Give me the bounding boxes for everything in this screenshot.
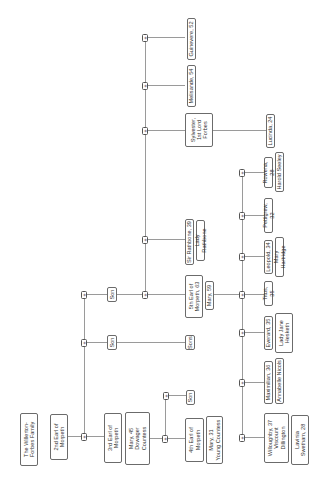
connector-line [145, 85, 185, 86]
connector-line [242, 437, 264, 438]
connector-line [242, 172, 264, 173]
node-sir-rathbone[interactable]: Sir Rathbone, 39 [185, 219, 194, 265]
connector-line [165, 396, 166, 439]
node-annabelle[interactable]: Annabelle Nicols [275, 358, 284, 404]
node-rowena[interactable]: Rowena, 28 [264, 157, 273, 188]
node-mary-45[interactable]: Mary, 45 Dowager Countess [125, 412, 150, 465]
connector-line [117, 294, 145, 295]
node-harold-seeley[interactable]: Harold Seeley [275, 152, 284, 192]
connector-line [145, 130, 185, 131]
expand-button[interactable]: + [239, 212, 245, 220]
connector-line [145, 239, 185, 240]
connector-line [84, 295, 85, 437]
node-melisande[interactable]: Melisande, 54 [187, 65, 196, 107]
connector-line [242, 215, 264, 216]
expand-button[interactable]: + [239, 329, 245, 337]
expand-button[interactable]: + [142, 127, 148, 135]
node-sylvester[interactable]: Sylvester, 1st Lord Forbes [185, 113, 213, 147]
connector-line [145, 294, 185, 295]
node-pettigrew[interactable]: Pettigrew, 32 [264, 198, 273, 233]
expand-button[interactable]: + [81, 339, 87, 347]
connector-line [84, 436, 104, 437]
title-node: The Willerton- Forbes Family [20, 413, 38, 466]
node-willoughby[interactable]: Willoughby, 37 Viscount Dillington [264, 413, 289, 463]
node-sons[interactable]: Sons [185, 335, 195, 350]
connector-line [242, 294, 264, 295]
node-lady-jane[interactable]: Lady Jane Hesketh [275, 313, 293, 353]
connector-line [145, 38, 146, 295]
expand-button[interactable]: + [81, 433, 87, 441]
node-2nd-earl[interactable]: 2nd Earl of Morpeth [50, 414, 68, 460]
expand-button[interactable]: + [142, 291, 148, 299]
connector-line [145, 37, 185, 38]
node-3rd-earl[interactable]: 3rd Earl of Morpeth [104, 413, 122, 463]
node-5th-earl[interactable]: 5th Earl of Morpeth, 63 [185, 275, 203, 318]
expand-button[interactable]: + [142, 34, 148, 42]
node-lady-rathbone[interactable]: Lady Rathbone [196, 220, 205, 261]
connector-line [166, 395, 186, 396]
node-maximilian[interactable]: Maximilian, 36 [264, 361, 273, 404]
expand-button[interactable]: + [142, 236, 148, 244]
node-lavinia[interactable]: Lavinia Swetham, 28 [291, 415, 309, 465]
expand-button[interactable]: + [239, 169, 245, 177]
connector-line [84, 342, 107, 343]
connector-line [213, 130, 266, 131]
connector-line [242, 256, 264, 257]
expand-button[interactable]: + [239, 253, 245, 261]
connector-line [214, 294, 242, 295]
node-mary-31[interactable]: Mary, 31 Young Countess [206, 416, 223, 464]
node-mary-59[interactable]: Mary, 59 [205, 281, 214, 310]
connector-line [242, 382, 264, 383]
expand-button[interactable]: + [142, 82, 148, 90]
expand-button[interactable]: + [239, 291, 245, 299]
node-mary-hartridge[interactable]: Mary Hartridge [275, 237, 284, 277]
expand-button[interactable]: + [239, 434, 245, 442]
node-4th-earl[interactable]: 4th Earl of Morpeth [185, 418, 204, 462]
family-tree-diagram: The Willerton- Forbes Family 2nd Earl of… [0, 0, 329, 495]
node-son-b[interactable]: Son [107, 335, 117, 350]
connector-line [242, 332, 264, 333]
node-guinevere[interactable]: Guinevere, 52 [187, 18, 196, 60]
node-son-a[interactable]: Son [186, 390, 195, 405]
node-leopold[interactable]: Leopold, 34 [264, 240, 273, 274]
node-lucinda[interactable]: Lucinda, 24 [266, 114, 275, 148]
node-titus[interactable]: Titus, 35 [264, 281, 273, 306]
connector-line [84, 294, 107, 295]
expand-button[interactable]: + [239, 379, 245, 387]
node-everard[interactable]: Everard, 35 [264, 316, 273, 350]
expand-button[interactable]: + [163, 392, 169, 400]
node-son-c[interactable]: Son [107, 287, 117, 302]
connector-line [117, 342, 185, 343]
expand-button[interactable]: + [81, 291, 87, 299]
expand-button[interactable]: + [162, 435, 168, 443]
